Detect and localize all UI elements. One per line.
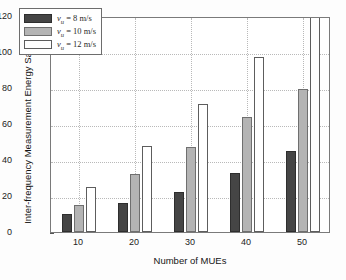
legend-label: vu = 10 m/s: [57, 26, 96, 38]
gridline-horizontal: [51, 90, 329, 91]
y-axis-tick-label: 40: [2, 156, 12, 165]
bar: [74, 205, 85, 232]
x-axis-tick-label: 20: [114, 238, 154, 247]
x-axis-title: Number of MUEs: [50, 255, 330, 266]
bar-chart-figure: 020406080100120 Inter-frequency Measurem…: [0, 0, 346, 280]
bar: [286, 151, 297, 232]
y-axis-tick-label: 120: [0, 12, 12, 21]
y-axis-tick-label: 100: [0, 48, 12, 57]
x-axis-tick-label: 50: [282, 238, 322, 247]
y-axis-tick-label: 20: [2, 192, 12, 201]
bar: [198, 104, 209, 232]
legend-item: vu = 12 m/s: [24, 38, 96, 51]
bar: [310, 17, 321, 232]
bar: [118, 203, 129, 232]
bar: [86, 187, 97, 232]
x-axis-tick-label: 10: [58, 238, 98, 247]
bar: [254, 57, 265, 232]
y-axis-tick-label: 0: [7, 228, 12, 237]
legend-swatch: [24, 40, 52, 49]
y-axis-tick-label: 60: [2, 120, 12, 129]
bar: [174, 192, 185, 232]
legend-swatch: [24, 14, 52, 23]
y-axis-tick-label: 80: [2, 84, 12, 93]
bar: [298, 89, 309, 232]
bar: [186, 147, 197, 232]
x-axis-tick-label: 30: [170, 238, 210, 247]
bar: [142, 146, 153, 232]
legend-label: vu = 12 m/s: [57, 39, 96, 51]
legend-label: vu = 8 m/s: [57, 13, 92, 25]
y-axis-tick-mark: [50, 233, 54, 234]
bar: [130, 174, 141, 232]
legend-item: vu = 8 m/s: [24, 12, 96, 25]
legend-item: vu = 10 m/s: [24, 25, 96, 38]
bar: [62, 214, 73, 232]
x-axis-tick-label: 40: [226, 238, 266, 247]
bar: [230, 173, 241, 232]
legend-swatch: [24, 27, 52, 36]
bar: [242, 117, 253, 232]
legend: vu = 8 m/svu = 10 m/svu = 12 m/s: [19, 8, 102, 55]
gridline-horizontal: [51, 126, 329, 127]
